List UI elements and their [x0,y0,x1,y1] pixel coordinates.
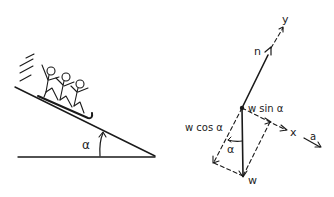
sledder-icon [56,73,74,107]
normal-force-vector [242,55,268,108]
weight-label: w [248,174,257,187]
angle-arrowhead-icon [228,137,231,142]
w-sin-alpha-label: w sin α [248,103,284,114]
angle-label: α [227,143,234,156]
sledder-icon [42,65,59,100]
sledder-icon [71,80,88,113]
sled-icon [38,96,92,118]
physics-diagram: α [0,0,334,197]
parallelogram-line [243,122,270,176]
incline-figure: α [15,54,155,157]
x-axis-label: x [290,126,297,139]
normal-force-arrowhead-icon [265,47,271,55]
y-axis-line [271,28,283,48]
angle-label: α [82,138,90,152]
free-body-diagram: y n w x w sin α a w cos α α [185,13,321,187]
y-axis-label: y [282,13,289,26]
parallelogram-line [214,163,243,176]
w-cos-alpha-label: w cos α [185,122,223,133]
speed-lines-icon [20,54,34,81]
normal-force-label: n [254,45,261,58]
w-cos-arrowhead-icon [213,156,219,163]
acceleration-label: a [310,131,316,142]
angle-arc [100,133,103,156]
weight-vector [242,108,243,176]
